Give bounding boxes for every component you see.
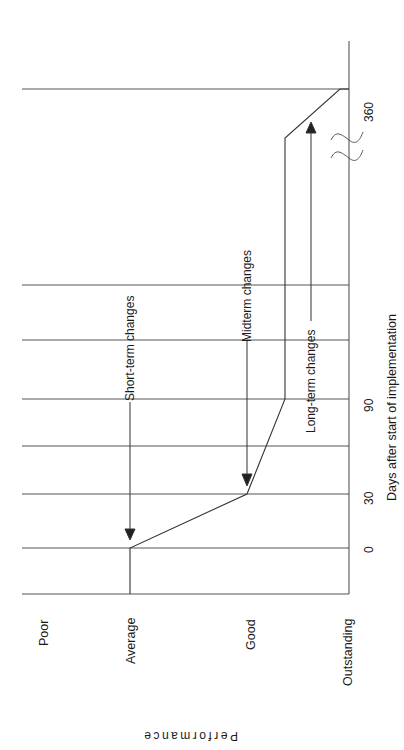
arrowhead-down-icon	[125, 529, 135, 540]
tick-day-30: 30	[362, 491, 376, 505]
midterm-label: Midterm changes	[240, 250, 254, 342]
level-average: Average	[124, 618, 138, 664]
axis-break-icon	[331, 132, 363, 160]
long-term-label: Long-term changes	[304, 330, 318, 433]
tick-day-90: 90	[362, 398, 376, 412]
level-outstanding: Outstanding	[341, 619, 355, 686]
tick-day-0: 0	[362, 546, 376, 553]
performance-chart: Short-term changes Midterm changes Long-…	[0, 0, 404, 750]
days-axis-title: Days after start of implementation	[385, 314, 399, 501]
arrowhead-up-icon	[306, 122, 316, 133]
tick-day-360: 360	[362, 102, 376, 122]
annotation-arrows	[125, 122, 316, 540]
performance-axis-title: Performance	[142, 729, 238, 743]
short-term-label: Short-term changes	[123, 296, 137, 401]
level-poor: Poor	[37, 620, 51, 646]
level-good: Good	[244, 619, 258, 650]
gridlines	[22, 89, 349, 594]
